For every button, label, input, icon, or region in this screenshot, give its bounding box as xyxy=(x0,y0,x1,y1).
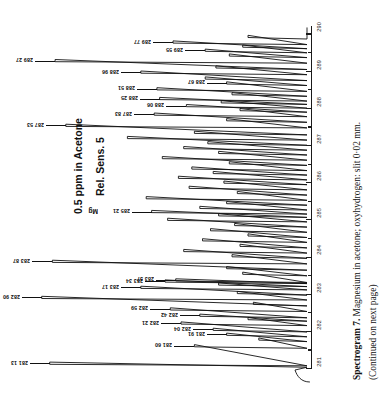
peak-leader-line xyxy=(30,363,50,364)
peak-leader-line xyxy=(132,212,152,213)
axis-minor-tick xyxy=(308,201,312,202)
axis-tick-label-282: 282 xyxy=(316,320,338,330)
peak-leader-line xyxy=(153,42,173,43)
axis-tick-290 xyxy=(306,33,312,34)
peak-leader-line xyxy=(161,323,181,324)
peak-label-288-51: 288 51 xyxy=(118,85,135,91)
peak-leader-line xyxy=(193,329,213,330)
peak-label-282-59: 282 59 xyxy=(131,305,148,311)
axis-tick-label-285: 285 xyxy=(316,208,338,218)
axis-tick-282 xyxy=(306,331,312,332)
peak-leader-line xyxy=(207,83,227,84)
peak-leader-line xyxy=(121,72,141,73)
peak-label-283-87: 283 87 xyxy=(13,258,30,264)
axis-tick-label-286: 286 xyxy=(316,171,338,181)
concentration-annotation: 0.5 ppm in Acetone xyxy=(72,118,84,214)
axis-tick-label-284: 284 xyxy=(316,245,338,255)
axis-minor-tick xyxy=(308,238,312,239)
peak-label-285-21: 285 21 xyxy=(112,208,129,214)
axis-tick-288 xyxy=(306,108,312,109)
axis-tick-label-287: 287 xyxy=(316,134,338,144)
peak-leader-line xyxy=(150,309,170,310)
axis-minor-tick xyxy=(308,275,312,276)
peak-leader-line xyxy=(185,50,205,51)
peak-label-288-67: 288 67 xyxy=(187,79,204,85)
peak-leader-line xyxy=(166,106,186,107)
peak-label-282-90: 282 90 xyxy=(3,294,20,300)
peak-leader-line xyxy=(32,261,52,262)
peak-label-287-53: 287 53 xyxy=(27,122,44,128)
peak-leader-line xyxy=(140,99,160,100)
peak-label-288-06: 288 06 xyxy=(147,102,164,108)
peak-label-283-34: 283 34 xyxy=(126,278,143,284)
axis-line xyxy=(311,26,312,368)
figure-caption: Spectrogram 7. Magnesium in acetone; oxy… xyxy=(352,122,362,380)
peak-leader-line xyxy=(180,315,200,316)
peak-leader-line xyxy=(121,287,141,288)
axis-tick-286 xyxy=(306,182,312,183)
axis-tick-label-288: 288 xyxy=(316,97,338,107)
axis-tick-label-290: 290 xyxy=(316,22,338,32)
axis-minor-tick xyxy=(308,349,312,350)
peak-leader-line xyxy=(145,281,165,282)
peak-label-282-42: 282 42 xyxy=(161,312,178,318)
axis-tick-284 xyxy=(306,257,312,258)
mg-element-marker: Mg xyxy=(88,208,98,215)
axis-minor-tick xyxy=(308,126,312,127)
axis-minor-tick xyxy=(308,312,312,313)
axis-tick-285 xyxy=(306,219,312,220)
peak-leader-line xyxy=(174,346,194,347)
peak-label-282-21: 282 21 xyxy=(142,320,159,326)
axis-tick-283 xyxy=(306,294,312,295)
peak-label-282-04: 282 04 xyxy=(174,326,191,332)
peak-label-288-25: 288 25 xyxy=(120,95,137,101)
axis-minor-tick xyxy=(308,52,312,53)
peak-label-281-13: 281 13 xyxy=(11,360,28,366)
caption-number: Spectrogram 7. xyxy=(352,319,362,380)
axis-tick-289 xyxy=(306,71,312,72)
axis-tick-281 xyxy=(306,368,312,369)
peak-leader-line xyxy=(134,114,154,115)
axis-tick-label-283: 283 xyxy=(316,283,338,293)
figure-caption-continued: (Continued on next page) xyxy=(368,284,378,380)
peak-label-289-27: 289 27 xyxy=(16,57,33,63)
axis-tick-label-281: 281 xyxy=(316,357,338,367)
spectrogram-figure: 281282283284285286287288289290 281 13281… xyxy=(0,0,386,394)
peak-label-289-55: 289 55 xyxy=(166,47,183,53)
axis-minor-tick xyxy=(308,89,312,90)
peak-label-283-17: 283 17 xyxy=(102,284,119,290)
sensitivity-annotation: Rel. Sens. 5 xyxy=(94,137,106,196)
axis-tick-label-289: 289 xyxy=(316,60,338,70)
peak-leader-line xyxy=(46,125,66,126)
peak-label-288-96: 288 96 xyxy=(102,69,119,75)
peak-leader-line xyxy=(137,89,157,90)
peak-label-287-83: 287 83 xyxy=(115,111,132,117)
peak-leader-line xyxy=(22,297,42,298)
peak-label-289-77: 289 77 xyxy=(134,39,151,45)
peak-leader-line xyxy=(35,61,55,62)
peak-leader-line xyxy=(207,334,227,335)
caption-text: Magnesium in acetone; oxyhydrogen: slit … xyxy=(352,122,362,319)
axis-minor-tick xyxy=(308,164,312,165)
axis-tick-287 xyxy=(306,145,312,146)
peak-label-281-60: 281 60 xyxy=(155,342,172,348)
